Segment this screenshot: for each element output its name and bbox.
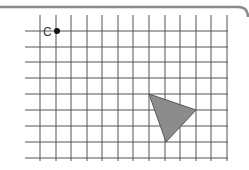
grid-lines [25, 15, 228, 161]
shaded-triangle [149, 94, 196, 142]
grid-diagram: C [0, 0, 249, 170]
point-c-label: C [43, 25, 52, 39]
point-c-dot [54, 28, 60, 34]
